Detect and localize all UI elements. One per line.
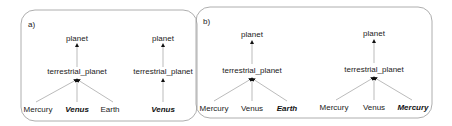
tree-1-root: planet — [66, 34, 89, 43]
tree-1-mid: terrestrial_planet — [47, 67, 107, 76]
tree-3-root: planet — [241, 30, 264, 39]
tree-1: planet terrestrial_planet Mercury Venus … — [24, 34, 120, 114]
panel-b-frame — [196, 7, 432, 118]
tree-1-leaf-mercury: Mercury — [24, 105, 53, 114]
tree-2-leaf-venus: Venus — [151, 105, 175, 114]
tree-2-root: planet — [152, 34, 175, 43]
edge — [36, 80, 76, 102]
edge — [375, 78, 412, 100]
tree-4-leaf-mercury-highlighted: Mercury — [397, 103, 429, 112]
edge — [336, 78, 373, 100]
edge — [214, 79, 251, 101]
diagram-canvas: a) planet terrestrial_planet Mercury Ven… — [0, 0, 452, 126]
edge — [253, 79, 287, 101]
tree-1-leaf-earth: Earth — [100, 105, 119, 114]
tree-4-leaf-mercury: Mercury — [320, 103, 349, 112]
panel-a-label: a) — [28, 20, 35, 29]
tree-2-mid: terrestrial_planet — [133, 67, 193, 76]
edge — [78, 80, 113, 102]
tree-3-leaf-earth: Earth — [277, 104, 298, 113]
tree-4-leaf-venus: Venus — [363, 103, 385, 112]
tree-3-leaf-venus: Venus — [241, 104, 263, 113]
panel-b-label: b) — [203, 17, 210, 26]
tree-3: planet terrestrial_planet Mercury Venus … — [200, 30, 298, 113]
tree-4: planet terrestrial_planet Mercury Venus … — [320, 29, 430, 112]
tree-1-leaf-venus: Venus — [65, 105, 89, 114]
tree-2: planet terrestrial_planet Venus — [133, 34, 193, 114]
tree-4-mid: terrestrial_planet — [344, 65, 404, 74]
tree-4-root: planet — [363, 29, 386, 38]
tree-3-mid: terrestrial_planet — [222, 66, 282, 75]
tree-3-leaf-mercury: Mercury — [200, 104, 229, 113]
